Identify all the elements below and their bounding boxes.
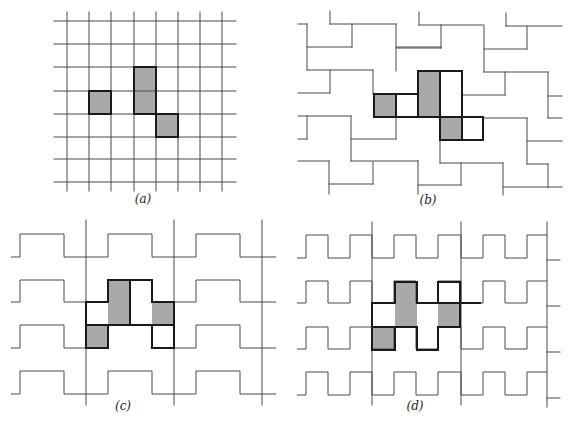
panel-b-staggered-tiling	[298, 11, 562, 195]
panel-a-square-lattice	[54, 12, 236, 191]
panel-d-fine-square-wave-tiling	[297, 222, 560, 407]
shaded-cell	[438, 303, 460, 327]
square-wave-row	[297, 372, 547, 395]
square-wave-row	[11, 234, 276, 257]
shaded-cell	[89, 91, 111, 114]
shaded-cell	[86, 325, 108, 348]
panel-a-label: (a)	[135, 192, 152, 206]
figure-canvas: (a) (b) (c) (d)	[0, 0, 572, 422]
panel-d-label: (d)	[406, 399, 423, 413]
shaded-cell	[372, 327, 395, 350]
panel-b-label: (b)	[419, 193, 436, 207]
tiling-figure	[0, 0, 572, 422]
shaded-cell	[152, 302, 174, 325]
square-wave-row	[11, 280, 276, 302]
shaded-cell	[418, 71, 440, 117]
shaded-cell	[374, 94, 396, 117]
shaded-cell	[395, 282, 417, 327]
shaded-cell	[156, 114, 178, 137]
square-wave-row	[297, 235, 547, 258]
panel-c-label: (c)	[115, 399, 131, 413]
square-wave-row	[11, 325, 276, 348]
shaded-cell	[108, 280, 130, 325]
square-wave-row	[297, 281, 547, 303]
panel-c-square-wave-tiling	[11, 220, 276, 405]
square-wave-row	[297, 327, 547, 349]
square-wave-row	[11, 371, 276, 394]
shaded-cell	[440, 117, 462, 139]
